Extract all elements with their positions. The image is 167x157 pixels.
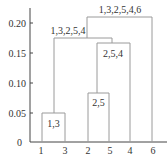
y-tick-label: 0.15 (9, 48, 27, 59)
dendrogram-chart: 0.20 0.15 0.10 0.05 0 1 3 2 5 4 6 1,3 2,… (0, 0, 167, 157)
leaf-label: 2 (86, 145, 91, 156)
node-label-1-3: 1,3 (47, 118, 60, 129)
node-label-1-3-2-5-4: 1,3,2,5,4 (51, 25, 86, 36)
node-label-2-5-4: 2,5,4 (103, 48, 123, 59)
leaf-label: 4 (128, 145, 133, 156)
y-tick-label: 0.10 (9, 78, 27, 89)
node-label-all: 1,3,2,5,4,6 (99, 4, 142, 15)
y-tick-label: 0.05 (9, 108, 27, 119)
x-leaf-labels: 1 3 2 5 4 6 (39, 145, 156, 156)
node-label-2-5: 2,5 (92, 97, 105, 108)
y-tick-label: 0.20 (9, 18, 27, 29)
y-ticks: 0.20 0.15 0.10 0.05 0 (9, 18, 34, 149)
y-tick-label: 0 (17, 137, 22, 148)
node-labels: 1,3 2,5 2,5,4 1,3,2,5,4 1,3,2,5,4,6 (47, 4, 141, 129)
leaf-label: 3 (63, 145, 68, 156)
leaf-label: 5 (108, 145, 113, 156)
leaf-label: 6 (151, 145, 156, 156)
leaf-label: 1 (39, 145, 44, 156)
